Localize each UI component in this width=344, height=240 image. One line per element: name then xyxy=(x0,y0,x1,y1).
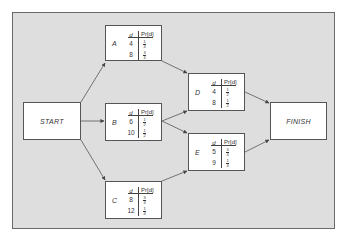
activity-label: B xyxy=(112,119,117,126)
duration-value: 4 xyxy=(124,40,138,47)
start-label: START xyxy=(40,118,64,125)
duration-value: 5 xyxy=(207,148,221,155)
probability-fraction: 12 xyxy=(143,118,146,127)
finish-label: FINISH xyxy=(286,118,311,125)
probability-fraction: 14 xyxy=(143,207,146,216)
duration-value: 8 xyxy=(124,51,138,58)
activity-node-e: E dPr[d] 534 914 xyxy=(188,133,245,171)
distribution-table: dPr[d] 534 914 xyxy=(207,137,236,168)
duration-value: 8 xyxy=(207,99,221,106)
table-row: 612 xyxy=(124,116,153,127)
duration-value: 10 xyxy=(124,129,138,136)
probability-fraction: 34 xyxy=(143,196,146,205)
edge-e-finish xyxy=(245,140,269,152)
activity-node-b: B dPr[d] 612 1012 xyxy=(105,103,162,141)
table-row: 834 xyxy=(124,49,153,60)
probability-fraction: 12 xyxy=(143,129,146,138)
finish-node: FINISH xyxy=(270,102,327,140)
activity-node-d: D dPr[d] 412 812 xyxy=(188,73,245,111)
duration-value: 8 xyxy=(124,196,138,203)
edge-b-d xyxy=(162,111,187,121)
start-node: START xyxy=(23,102,81,140)
duration-value: 9 xyxy=(207,159,221,166)
edge-start-a xyxy=(81,63,105,102)
activity-label: A xyxy=(112,40,117,47)
edge-a-d xyxy=(162,61,187,73)
distribution-table: dPr[d] 414 834 xyxy=(124,29,153,60)
activity-label: D xyxy=(195,89,200,96)
table-row: 1214 xyxy=(124,205,153,216)
duration-value: 4 xyxy=(207,88,221,95)
table-row: 1012 xyxy=(124,127,153,138)
probability-fraction: 12 xyxy=(226,99,229,108)
distribution-table: dPr[d] 412 812 xyxy=(207,77,236,108)
table-row: 414 xyxy=(124,38,153,49)
table-row: 412 xyxy=(207,86,236,97)
probability-fraction: 14 xyxy=(226,159,229,168)
probability-fraction: 34 xyxy=(143,51,146,60)
distribution-table: dPr[d] 834 1214 xyxy=(124,185,153,216)
activity-node-a: A dPr[d] 414 834 xyxy=(105,25,162,61)
header-pr: Pr[d] xyxy=(138,31,153,38)
activity-node-c: C dPr[d] 834 1214 xyxy=(105,181,162,219)
edge-b-e xyxy=(162,121,187,133)
edge-d-finish xyxy=(245,92,269,103)
header-pr: Pr[d] xyxy=(138,109,153,116)
table-row: 834 xyxy=(124,194,153,205)
probability-fraction: 12 xyxy=(226,88,229,97)
header-pr: Pr[d] xyxy=(221,79,236,86)
probability-fraction: 34 xyxy=(226,148,229,157)
edge-c-e xyxy=(162,171,187,181)
probability-fraction: 14 xyxy=(143,40,146,49)
activity-label: E xyxy=(195,149,200,156)
header-pr: Pr[d] xyxy=(138,187,153,194)
table-row: 812 xyxy=(207,97,236,108)
header-pr: Pr[d] xyxy=(221,139,236,146)
edge-start-c xyxy=(81,140,105,180)
duration-value: 6 xyxy=(124,118,138,125)
activity-label: C xyxy=(112,197,117,204)
table-row: 914 xyxy=(207,157,236,168)
table-row: 534 xyxy=(207,146,236,157)
duration-value: 12 xyxy=(124,207,138,214)
distribution-table: dPr[d] 612 1012 xyxy=(124,107,153,138)
